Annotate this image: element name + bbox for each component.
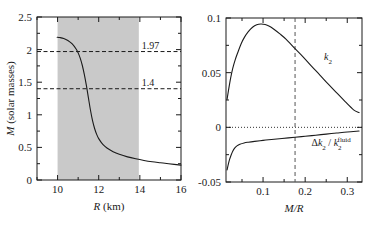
mass-line-label-1-4: 1.4 xyxy=(142,77,155,88)
x-tick-label: 0.1 xyxy=(256,185,270,197)
x-tick-label: 12 xyxy=(93,183,104,195)
y-tick-label: 1 xyxy=(27,109,33,121)
curve-label-delta-k2-over-k2-fluid: Δk2 / k2fluid xyxy=(311,136,351,152)
x-tick-label: 16 xyxy=(176,183,188,195)
y-tick-label: 1.5 xyxy=(18,76,32,88)
y-tick-label: 0.1 xyxy=(207,12,221,24)
y-tick-label: 2 xyxy=(27,44,33,56)
y-tick-label: 0.5 xyxy=(18,141,32,153)
y-tick-label: 0.05 xyxy=(202,67,222,79)
right-panel-frame xyxy=(226,18,362,182)
x-tick-label: 0.3 xyxy=(340,185,354,197)
right-panel: 0.10.20.3-0.0500.050.1k2Δk2 / k2fluidM/R xyxy=(198,12,362,214)
curve-label-k2: k2 xyxy=(324,51,332,66)
left-panel-x-axis-title: R (km) xyxy=(93,200,125,213)
x-tick-label: 0.2 xyxy=(298,185,312,197)
x-tick-label: 10 xyxy=(52,183,64,195)
figure-container: 1.971.41012141600.511.522.5R (km)M (sola… xyxy=(0,0,371,227)
right-panel-x-axis-title: M/R xyxy=(284,202,304,214)
figure-svg: 1.971.41012141600.511.522.5R (km)M (sola… xyxy=(0,0,371,227)
mass-line-label-1-97: 1.97 xyxy=(142,40,160,51)
y-tick-label: 0 xyxy=(216,121,222,133)
y-tick-label: 0 xyxy=(27,174,33,186)
x-tick-label: 14 xyxy=(134,183,146,195)
y-tick-label: 2.5 xyxy=(18,11,32,23)
left-panel: 1.971.41012141600.511.522.5R (km)M (sola… xyxy=(4,11,187,213)
curve-k2 xyxy=(227,24,359,113)
y-tick-label: -0.05 xyxy=(198,176,221,188)
left-panel-y-axis-title: M (solar masses) xyxy=(4,61,17,137)
